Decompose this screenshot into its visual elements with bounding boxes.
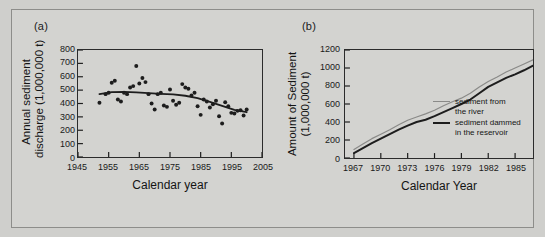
y-tick-label: 0 xyxy=(335,155,340,164)
panel-b-legend: sediment from the river sediment dammed … xyxy=(433,97,521,139)
panel-a-y-axis-title: Annual sediment discharge (1,000,000 t) xyxy=(20,46,46,158)
x-tick-label: 1975 xyxy=(160,162,180,172)
y-tick-label: 600 xyxy=(325,100,340,109)
y-tick-label: 300 xyxy=(60,113,75,122)
x-tick-label: 1970 xyxy=(370,163,390,173)
legend-label-reservoir: sediment dammed in the reservoir xyxy=(455,118,521,137)
legend-label-reservoir-line2: in the reservoir xyxy=(455,128,521,138)
legend-label-river: sediment from the river xyxy=(455,97,506,116)
x-tick-label: 1979 xyxy=(452,163,472,173)
y-tick-label: 400 xyxy=(325,118,340,127)
x-tick-label: 1985 xyxy=(191,162,211,172)
panel-b-y-tick-labels: 020040060080010001200 xyxy=(310,49,340,159)
x-tick-label: 1995 xyxy=(222,162,242,172)
y-tick-label: 100 xyxy=(60,140,75,149)
y-tick-label: 800 xyxy=(60,45,75,54)
panel-b: (b) Amount of Sediment (1,000,000 t) 020… xyxy=(284,10,535,227)
panel-a-x-tick-labels: 1945195519651975198519952005 xyxy=(77,162,263,174)
y-tick-label: 200 xyxy=(325,136,340,145)
y-tick-label: 400 xyxy=(60,99,75,108)
panel-b-x-axis-title: Calendar Year xyxy=(344,179,534,193)
figure-plate: (a) Annual sediment discharge (1,000,000… xyxy=(11,9,534,228)
legend-label-river-line2: the river xyxy=(455,107,506,117)
panel-a-y-axis-title-line1: Annual sediment xyxy=(20,46,33,158)
panel-a-plot-area xyxy=(77,49,263,158)
panel-a: (a) Annual sediment discharge (1,000,000… xyxy=(12,10,284,227)
panel-b-x-tick-labels: 1967197019731976197919821985 xyxy=(344,163,534,175)
panel-a-plot-svg xyxy=(78,50,262,157)
legend-line-swatch-reservoir xyxy=(433,122,450,124)
y-tick-label: 700 xyxy=(60,58,75,67)
x-tick-label: 1945 xyxy=(67,162,87,172)
x-tick-label: 1976 xyxy=(424,163,444,173)
legend-label-reservoir-line1: sediment dammed xyxy=(455,118,521,128)
legend-line-swatch-river xyxy=(433,101,450,102)
figure-root: (a) Annual sediment discharge (1,000,000… xyxy=(0,0,545,237)
y-tick-label: 200 xyxy=(60,126,75,135)
panel-b-plot-area: sediment from the river sediment dammed … xyxy=(344,49,534,159)
x-tick-label: 1965 xyxy=(129,162,149,172)
panel-a-y-tick-labels: 0100200300400500600700800 xyxy=(45,49,75,158)
panel-a-x-axis-title: Calendar year xyxy=(77,178,263,192)
panel-b-label: (b) xyxy=(302,20,316,32)
y-tick-label: 600 xyxy=(60,72,75,81)
legend-label-river-line1: sediment from xyxy=(455,97,506,107)
y-tick-label: 1200 xyxy=(320,45,340,54)
x-tick-label: 1967 xyxy=(343,163,363,173)
panel-b-y-axis-title: Amount of Sediment (1,000,000 t) xyxy=(286,48,312,160)
x-tick-label: 1982 xyxy=(479,163,499,173)
y-tick-label: 800 xyxy=(325,81,340,90)
y-tick-label: 1000 xyxy=(320,63,340,72)
legend-entry-river: sediment from the river xyxy=(433,97,521,116)
legend-entry-reservoir: sediment dammed in the reservoir xyxy=(433,118,521,137)
x-tick-label: 1973 xyxy=(397,163,417,173)
x-tick-label: 1955 xyxy=(98,162,118,172)
x-tick-label: 2005 xyxy=(253,162,273,172)
panel-a-label: (a) xyxy=(34,20,48,32)
y-tick-label: 500 xyxy=(60,85,75,94)
panel-b-y-axis-title-line1: Amount of Sediment xyxy=(286,48,299,160)
x-tick-label: 1985 xyxy=(506,163,526,173)
